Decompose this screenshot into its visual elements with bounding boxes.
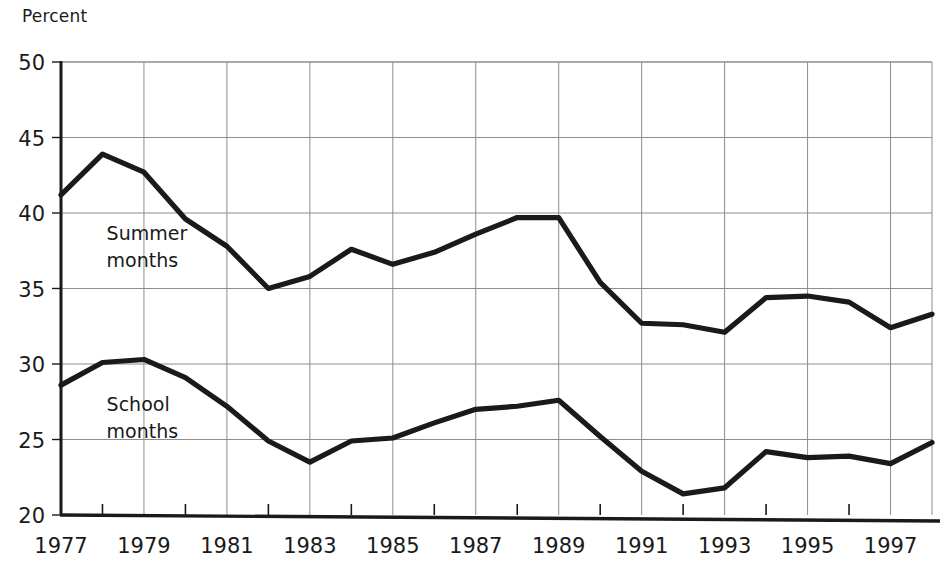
x-tick-label: 1981 <box>200 534 253 558</box>
x-tick-label: 1997 <box>864 534 917 558</box>
x-tick-label: 1979 <box>117 534 170 558</box>
series-label-line2: months <box>107 420 179 442</box>
y-tick-label: 50 <box>18 51 45 75</box>
gridlines <box>61 62 932 515</box>
x-tick-label: 1993 <box>698 534 751 558</box>
x-tick-label: 1991 <box>615 534 668 558</box>
y-tick-label: 20 <box>18 504 45 528</box>
plot-area: 50454035302520 1977197919811983198519871… <box>0 0 942 588</box>
series-label-line1: Summer <box>107 222 188 244</box>
chart-root: Percent 50454035302520 19771979198119831… <box>0 0 942 588</box>
x-tick-label: 1989 <box>532 534 585 558</box>
y-tick-label: 35 <box>18 278 45 302</box>
x-tick-label: 1987 <box>449 534 502 558</box>
series-annotations: SummermonthsSchoolmonths <box>107 222 188 442</box>
y-tick-labels: 50454035302520 <box>18 51 45 528</box>
y-tick-label: 40 <box>18 202 45 226</box>
y-tick-label: 45 <box>18 127 45 151</box>
x-tick-labels: 1977197919811983198519871989199119931995… <box>34 534 917 558</box>
data-series <box>61 154 932 494</box>
series-line-summer-months <box>61 154 932 332</box>
y-tick-label: 25 <box>18 429 45 453</box>
x-tick-label: 1995 <box>781 534 834 558</box>
line-chart-svg: 50454035302520 1977197919811983198519871… <box>0 0 942 588</box>
x-tick-label: 1983 <box>283 534 336 558</box>
x-axis-line <box>60 515 940 521</box>
y-tick-label: 30 <box>18 353 45 377</box>
x-tick-label: 1977 <box>34 534 87 558</box>
series-label-line1: School <box>107 393 170 415</box>
series-label-summer-months: Summermonths <box>107 222 188 271</box>
x-tick-label: 1985 <box>366 534 419 558</box>
series-label-school-months: Schoolmonths <box>107 393 179 442</box>
series-label-line2: months <box>107 249 179 271</box>
series-line-school-months <box>61 359 932 493</box>
